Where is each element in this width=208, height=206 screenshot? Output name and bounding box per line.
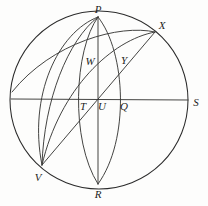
point-label-V: V: [35, 172, 42, 183]
point-label-S: S: [193, 97, 199, 108]
point-label-W: W: [85, 56, 94, 67]
point-label-U: U: [98, 101, 106, 112]
point-label-T: T: [80, 101, 86, 112]
point-label-R: R: [95, 189, 102, 200]
point-label-X: X: [159, 20, 166, 31]
geometry-figure: P X W Y T U Q S V R: [0, 0, 208, 206]
point-label-Q: Q: [120, 101, 128, 112]
point-label-P: P: [95, 4, 102, 15]
point-label-Y: Y: [121, 55, 127, 66]
